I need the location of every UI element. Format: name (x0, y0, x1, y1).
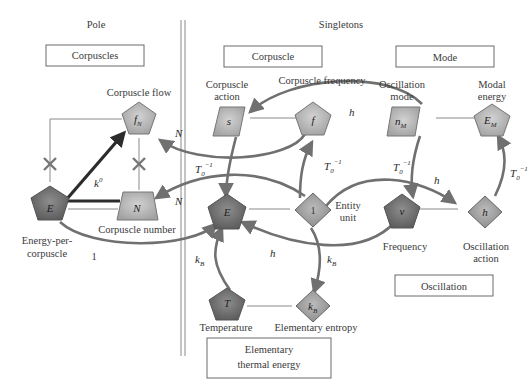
edge-label-one: 1 (91, 251, 96, 262)
svg-text:Oscillation: Oscillation (421, 281, 468, 292)
svg-text:Corpuscle frequency: Corpuscle frequency (278, 75, 366, 86)
node-modal-energy: Modal energy EM (474, 79, 510, 136)
svg-text:action: action (473, 253, 499, 264)
node-energy: E (208, 194, 246, 229)
svg-text:E: E (46, 202, 54, 214)
svg-text:Corpuscle: Corpuscle (252, 51, 295, 62)
node-energy-per-corpuscle: E Energy-per- corpuscle (22, 186, 73, 259)
svg-text:Corpuscle: Corpuscle (206, 79, 249, 90)
node-entity-unit: 1 Entity unit (295, 193, 362, 227)
svg-text:Corpuscle number: Corpuscle number (98, 224, 176, 235)
edge-label-T0inv-left: T0−1 (195, 161, 213, 178)
svg-text:s: s (227, 115, 231, 127)
edge-label-N-top: N (174, 127, 183, 139)
line-E-fN (50, 119, 122, 182)
svg-text:Corpuscle flow: Corpuscle flow (107, 87, 172, 98)
edge-label-h-mode: h (434, 174, 440, 186)
svg-text:E: E (223, 206, 231, 218)
node-corpuscle-action: Corpuscle action s (206, 79, 249, 136)
arrow-1-to-kB (311, 228, 320, 292)
svg-text:N: N (132, 202, 141, 214)
edge-label-T0inv-right: T0−1 (510, 165, 528, 182)
node-frequency: ν Frequency (383, 194, 428, 252)
node-temperature: T Temperature (200, 288, 253, 333)
edge-label-kB-right: kB (327, 253, 337, 268)
box-corpuscle: Corpuscle (224, 46, 322, 67)
node-corpuscle-number: N Corpuscle number (98, 192, 176, 235)
svg-text:Mode: Mode (433, 52, 458, 63)
arrow-E-to-fN (66, 133, 124, 200)
box-elementary-thermal-energy: Elementary thermal energy (207, 338, 331, 378)
node-oscillation-mode: Oscillation mode nM (379, 79, 426, 136)
edge-label-h-top: h (349, 106, 355, 118)
svg-text:ν: ν (400, 205, 405, 217)
svg-text:Corpuscles: Corpuscles (72, 50, 119, 61)
arrow-T-to-E (215, 228, 230, 290)
edge-label-k0: k0 (94, 176, 103, 189)
node-oscillation-action: h Oscillation action (463, 196, 510, 264)
node-elementary-entropy: kB Elementary entropy (274, 290, 358, 333)
arrow-nM-to-nu (412, 136, 420, 197)
edge-label-N-bottom: N (174, 195, 183, 207)
node-corpuscle-flow: Corpuscle flow fN (107, 87, 172, 134)
arrow-h-to-EM (495, 136, 504, 196)
diagram-canvas: Pole Singletons Corpuscles Corpuscle Mod… (0, 0, 532, 390)
edge-label-h-bottom: h (270, 247, 276, 259)
svg-text:h: h (482, 206, 488, 218)
pentagon-shape (122, 102, 156, 134)
svg-text:Temperature: Temperature (200, 322, 253, 333)
svg-text:unit: unit (340, 212, 356, 223)
svg-text:Entity: Entity (335, 200, 361, 211)
svg-text:energy: energy (478, 91, 507, 102)
svg-text:action: action (214, 91, 240, 102)
svg-text:Frequency: Frequency (383, 241, 428, 252)
box-mode: Mode (396, 46, 494, 67)
arrow-s-to-E (226, 137, 236, 196)
svg-text:corpuscle: corpuscle (27, 248, 68, 259)
svg-text:thermal energy: thermal energy (237, 359, 301, 370)
diamond-shape (296, 290, 330, 322)
box-corpuscles: Corpuscles (46, 45, 144, 66)
svg-text:T: T (224, 297, 231, 309)
svg-text:Oscillation: Oscillation (379, 79, 426, 90)
box-oscillation: Oscillation (395, 275, 493, 296)
edge-label-T0inv-mode: T0−1 (393, 159, 411, 176)
svg-text:mode: mode (390, 91, 414, 102)
pentagon-shape (474, 104, 510, 136)
edge-label-T0inv-center: T0−1 (324, 158, 342, 175)
svg-text:Modal: Modal (478, 79, 505, 90)
svg-text:Energy-per-: Energy-per- (22, 235, 73, 246)
svg-text:Elementary: Elementary (245, 344, 294, 355)
svg-text:1: 1 (310, 205, 315, 216)
svg-text:Oscillation: Oscillation (463, 241, 510, 252)
svg-text:Elementary entropy: Elementary entropy (274, 322, 358, 333)
section-pole: Pole (87, 19, 106, 30)
edge-label-kB-left: kB (195, 253, 205, 268)
node-corpuscle-frequency: Corpuscle frequency f (278, 75, 366, 135)
section-singletons: Singletons (319, 19, 363, 30)
arrow-1-to-f (300, 142, 312, 198)
